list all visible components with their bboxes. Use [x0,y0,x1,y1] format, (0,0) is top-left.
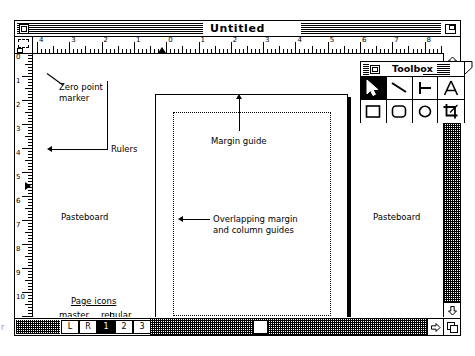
vertical-ruler[interactable]: 01234567891011 [15,54,33,317]
ruler-tick [25,232,32,233]
annotation-margin-guide-arrow [236,94,242,99]
ellipse-tool[interactable] [413,100,439,123]
ruler-tick [166,42,167,53]
ruler-tick [118,46,119,53]
rectangle-tool[interactable] [361,100,387,123]
ruler-tick [28,55,32,56]
ruler-tick [22,76,32,77]
toolbox-title-bar[interactable]: Toolbox [361,62,464,77]
page-icon-3[interactable]: 3 [133,320,151,334]
ruler-tick [28,118,32,119]
ruler-tick [356,49,357,53]
ruler-tick [28,223,32,224]
ruler-tick [227,49,228,53]
ruler-tick [344,46,345,53]
ruler-tick [28,106,32,107]
ruler-tick [28,313,32,314]
grow-box[interactable] [443,318,460,335]
ruler-tick [25,112,32,113]
crop-icon [442,103,460,120]
ruler-tick [130,49,131,53]
horizontal-ruler-label: 3 [265,37,269,44]
pasteboard-label-right: Pasteboard [373,212,421,223]
ruler-tick [178,49,179,53]
ruler-tick [404,49,405,53]
page-icon-1[interactable]: 1 [97,320,115,334]
ruler-tick [102,42,103,53]
horizontal-ruler[interactable]: 4321012345678 [33,37,444,54]
scroll-right-arrow[interactable] [427,319,443,335]
ruler-tick [336,49,337,53]
page-icon-2[interactable]: 2 [115,320,133,334]
ruler-tick [28,130,32,131]
document-page[interactable] [155,94,348,317]
page-icon-l[interactable]: L [61,320,79,334]
ruler-tick [69,42,70,53]
ruler-tick [243,49,244,53]
ruler-tick [28,94,32,95]
pointer-tool[interactable] [361,77,387,100]
ruler-tick [49,49,50,53]
ruler-tick [340,49,341,53]
ruler-tick [28,238,32,239]
ruler-tick [190,49,191,53]
toolbox-zoom-box[interactable] [464,61,473,75]
ruler-tick [199,42,200,53]
ruler-tick [28,202,32,203]
annotation-zero-point-leader [47,73,64,86]
ruler-tick [28,235,32,236]
ruler-tick [295,42,296,53]
ruler-tick [384,49,385,53]
annotation-margin-guide-leader [239,99,240,131]
vertical-ruler-label: 10 [16,294,25,301]
toolbox-tools-grid[interactable] [361,77,464,123]
ruler-tick [114,49,115,53]
rounded-rectangle-tool[interactable] [387,100,413,123]
crop-tool[interactable] [438,100,464,123]
zero-point-corner[interactable] [15,37,33,54]
ruler-tick [28,70,32,71]
ruler-tick [28,259,32,260]
ruler-tick [425,42,426,53]
ruler-tick [28,67,32,68]
page-icon-r[interactable]: R [79,320,97,334]
horizontal-scrollbar-thumb[interactable] [253,320,268,334]
ruler-tick [275,49,276,53]
ruler-tick [316,49,317,53]
horizontal-scrollbar[interactable] [150,318,443,335]
ruler-tick [380,49,381,53]
ruler-tick [41,49,42,53]
vertical-ruler-label: 1 [16,78,20,85]
ruler-tick [22,124,32,125]
toolbox-title: Toolbox [361,62,464,76]
ruler-tick [37,42,38,53]
ruler-tick [28,139,32,140]
page-icon-bar[interactable]: LR1234 [15,318,151,335]
toolbox-palette[interactable]: Toolbox [360,61,465,123]
scroll-down-arrow[interactable] [444,302,460,317]
ruler-tick [126,49,127,53]
ruler-tick [28,241,32,242]
horizontal-ruler-position-marker [158,47,166,53]
ruler-tick [61,49,62,53]
ruler-tick [421,49,422,53]
title-bar[interactable]: Untitled [15,21,460,37]
toolbox-title-text: Toolbox [388,63,437,74]
annotation-overlapping-guides-leader [183,219,210,220]
ruler-tick [320,49,321,53]
annotation-rulers: Rulers [111,144,137,155]
vertical-ruler-label: 9 [16,270,20,277]
ruler-tick [328,42,329,53]
ruler-tick [154,49,155,53]
annotation-rulers-leader-v [107,81,108,149]
diagonal-line-tool[interactable] [387,77,413,100]
ruler-tick [28,133,32,134]
ruler-tick [25,280,32,281]
ruler-tick [28,286,32,287]
annotation-rulers-arrow [47,146,52,152]
perpendicular-line-tool[interactable] [413,77,439,100]
text-tool[interactable] [438,77,464,100]
ruler-tick [28,91,32,92]
ruler-tick [299,49,300,53]
ruler-tick [352,49,353,53]
